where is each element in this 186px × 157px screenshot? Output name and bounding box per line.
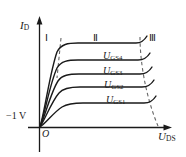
- x-axis-subscript: DS: [166, 134, 176, 143]
- region-label-1: Ⅰ: [45, 33, 48, 43]
- pinch-off-voltage-label: −1 V: [6, 111, 26, 121]
- output-characteristics-figure: ID UDS O −1 V Ⅰ Ⅱ Ⅲ UGS4 UGS3 UGS2 UGS1: [0, 0, 186, 157]
- curve-label-ugs2-subscript: GS2: [111, 83, 123, 90]
- curve-label-ugs3: UGS3: [103, 66, 123, 77]
- origin-label: O: [42, 129, 49, 139]
- curve-label-ugs4: UGS4: [103, 51, 123, 62]
- y-axis-subscript: D: [24, 23, 30, 32]
- curve-label-ugs4-subscript: GS4: [110, 54, 122, 61]
- curve-label-ugs3-subscript: GS3: [110, 69, 122, 76]
- y-axis-label: ID: [20, 20, 29, 32]
- curve-label-ugs1-subscript: GS1: [113, 98, 125, 105]
- curve-label-ugs2: UGS2: [104, 80, 124, 91]
- curve-top: [40, 36, 147, 127]
- region-boundary-2-3-dashed: [140, 37, 158, 126]
- region-label-2: Ⅱ: [93, 33, 98, 43]
- curve-ugs4: [40, 53, 150, 127]
- region-boundary-1-2-dashed: [57, 38, 61, 78]
- x-axis-label: UDS: [158, 131, 176, 143]
- x-axis: [28, 125, 172, 131]
- curve-label-ugs1: UGS1: [106, 95, 126, 106]
- region-label-3: Ⅲ: [149, 33, 156, 43]
- x-axis-symbol: U: [158, 130, 166, 142]
- curve-ugs1: [40, 96, 156, 127]
